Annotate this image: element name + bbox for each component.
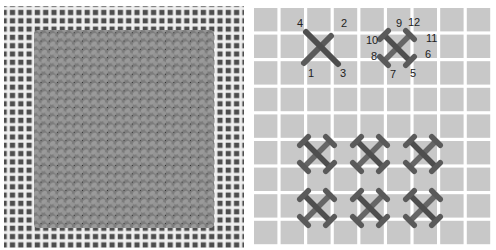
- stitched-square: [34, 30, 214, 228]
- stitch-number-label: 8: [371, 50, 377, 62]
- stitch-number-label: 1: [308, 67, 314, 79]
- stitch-number-label: 6: [425, 48, 431, 60]
- stitch-diagram: 123456789101112: [248, 0, 496, 250]
- stitch-number-label: 4: [297, 17, 303, 29]
- stitch-number-label: 10: [366, 34, 378, 46]
- stitch-number-label: 12: [408, 16, 420, 28]
- stitch-number-label: 5: [410, 67, 416, 79]
- stitch-number-label: 2: [341, 17, 347, 29]
- stitch-number-label: 7: [390, 68, 396, 80]
- stitch-number-label: 11: [426, 32, 437, 44]
- stitch-number-label: 3: [340, 67, 346, 79]
- stitched-canvas-photo: [0, 0, 246, 250]
- stitch-number-label: 9: [396, 17, 402, 29]
